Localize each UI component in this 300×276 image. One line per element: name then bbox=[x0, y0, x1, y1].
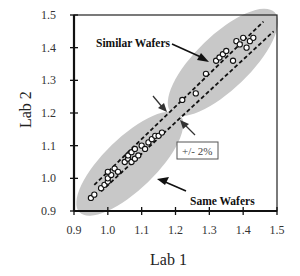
data-point bbox=[193, 91, 198, 96]
y-axis-title: Lab 2 bbox=[17, 91, 34, 128]
x-axis-title: Lab 1 bbox=[150, 251, 187, 268]
same-wafers-label: Same Wafers bbox=[190, 195, 255, 207]
data-point bbox=[237, 42, 242, 47]
x-tick-label: 0.9 bbox=[67, 223, 82, 237]
data-point bbox=[92, 192, 97, 197]
y-tick-label: 1.2 bbox=[41, 106, 56, 120]
y-ticks: 0.91.01.11.21.31.41.5 bbox=[41, 8, 78, 218]
y-tick-label: 0.9 bbox=[41, 204, 56, 218]
x-tick-label: 1.5 bbox=[270, 223, 285, 237]
data-point bbox=[244, 45, 249, 50]
x-tick-label: 1.4 bbox=[236, 223, 251, 237]
x-tick-label: 1.3 bbox=[202, 223, 217, 237]
data-point bbox=[180, 97, 185, 102]
data-point bbox=[136, 153, 141, 158]
similar-wafers-label: Similar Wafers bbox=[96, 37, 171, 49]
same-wafers-arrow bbox=[163, 181, 186, 191]
x-tick-label: 1.1 bbox=[134, 223, 149, 237]
lower-bound-line bbox=[101, 31, 274, 191]
data-point bbox=[159, 130, 164, 135]
data-point bbox=[241, 35, 246, 40]
same-wafers-arrowhead-icon bbox=[157, 177, 169, 185]
y-tick-label: 1.5 bbox=[41, 8, 56, 22]
data-point bbox=[105, 169, 110, 174]
x-tick-label: 1.0 bbox=[100, 223, 115, 237]
data-point bbox=[224, 48, 229, 53]
data-point bbox=[230, 58, 235, 63]
data-point bbox=[251, 35, 256, 40]
scatter-chart: 0.91.01.11.21.31.41.5 0.91.01.11.21.31.4… bbox=[0, 0, 300, 276]
y-tick-label: 1.1 bbox=[41, 139, 56, 153]
x-tick-label: 1.2 bbox=[168, 223, 183, 237]
data-point bbox=[142, 146, 147, 151]
y-tick-label: 1.4 bbox=[41, 41, 56, 55]
data-point bbox=[203, 71, 208, 76]
data-point bbox=[132, 146, 137, 151]
similar-wafers-region bbox=[152, 0, 293, 132]
y-tick-label: 1.0 bbox=[41, 171, 56, 185]
y-tick-label: 1.3 bbox=[41, 73, 56, 87]
tolerance-label: +/- 2% bbox=[182, 145, 212, 157]
data-point bbox=[115, 169, 120, 174]
